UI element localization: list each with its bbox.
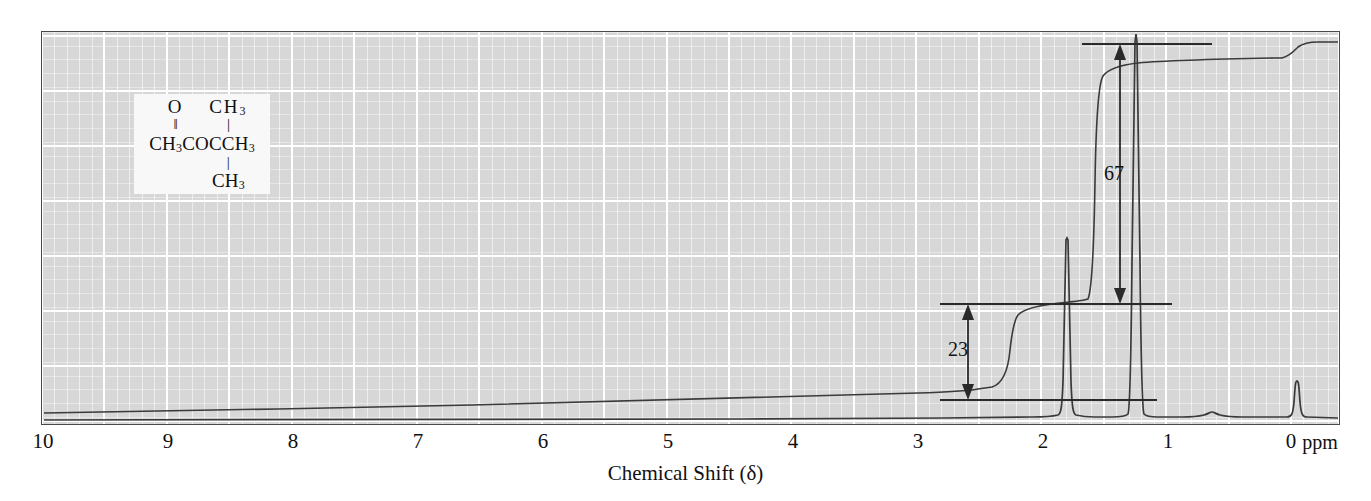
structure-main-chain: CH3COCCH3	[149, 134, 255, 154]
bottom-spacer	[149, 171, 202, 190]
x-axis-title: Chemical Shift (δ)	[0, 461, 1371, 486]
tick-1: 1	[1163, 429, 1174, 454]
tick-9: 9	[163, 429, 174, 454]
structure-bottom-row: CH3	[149, 171, 255, 191]
integration-23-arrowhead-up	[962, 304, 974, 320]
integration-23-annotation	[940, 304, 1172, 400]
single-bond-lower-icon: |	[202, 155, 255, 171]
structure-top-row: OCH3	[149, 97, 255, 117]
structure-inset: OCH3 ‖| CH3COCCH3 | CH3	[134, 94, 270, 194]
single-bond-upper-icon: |	[202, 117, 255, 133]
integration-67-annotation	[940, 44, 1212, 304]
tick-3: 3	[913, 429, 924, 454]
tick-6: 6	[538, 429, 549, 454]
tick-0: 0	[1286, 429, 1297, 454]
lower-methyl-label: CH3	[202, 171, 255, 191]
chemical-structure: OCH3 ‖| CH3COCCH3 | CH3	[149, 97, 255, 191]
spectrum-plot-area: OCH3 ‖| CH3COCCH3 | CH3	[41, 31, 1340, 425]
absorption-curve	[44, 34, 1338, 420]
tick-7: 7	[413, 429, 424, 454]
integration-67-arrowhead-up	[1114, 44, 1126, 60]
integration-23-arrowhead-down	[962, 384, 974, 400]
double-bond-icon: ‖	[149, 117, 202, 133]
carbonyl-oxygen-label: O	[149, 97, 202, 116]
tick-2: 2	[1038, 429, 1049, 454]
structure-bond-row-lower: |	[149, 155, 255, 171]
bond-spacer	[149, 155, 202, 171]
integration-23-label: 23	[948, 338, 968, 361]
tick-10: 10	[33, 429, 54, 454]
tick-5: 5	[663, 429, 674, 454]
nmr-spectrum-figure: OCH3 ‖| CH3COCCH3 | CH3 67 23 10 9 8 7 6…	[0, 0, 1371, 501]
spectrum-traces	[42, 32, 1340, 425]
integration-67-arrowhead-down	[1114, 288, 1126, 304]
upper-methyl-label: CH3	[202, 97, 255, 117]
tick-4: 4	[788, 429, 799, 454]
integration-67-label: 67	[1104, 162, 1124, 185]
ppm-unit-label: ppm	[1302, 431, 1338, 454]
structure-bond-row-upper: ‖|	[149, 117, 255, 133]
x-axis-tick-labels: 10 9 8 7 6 5 4 3 2 1 0 ppm	[0, 429, 1371, 465]
tick-8: 8	[288, 429, 299, 454]
